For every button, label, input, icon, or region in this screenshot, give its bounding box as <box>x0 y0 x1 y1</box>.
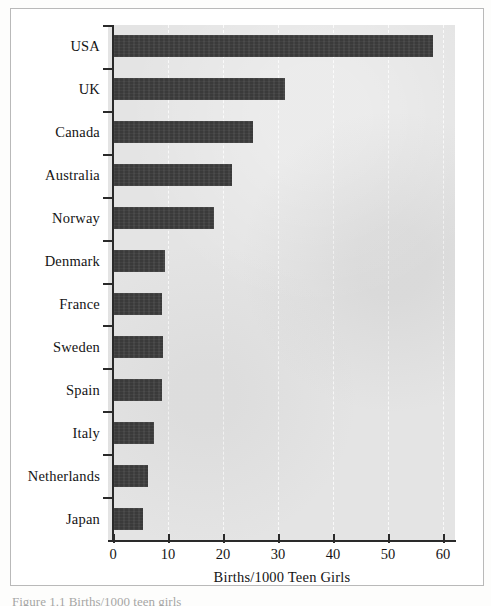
x-axis-title: Births/1000 Teen Girls <box>108 569 456 586</box>
y-tick-label-spain: Spain <box>4 382 100 398</box>
x-tick-label-50: 50 <box>381 546 396 563</box>
y-tick-label-italy: Italy <box>4 425 100 441</box>
bar <box>113 121 253 143</box>
y-tick-mark <box>103 283 114 285</box>
y-tick-mark <box>103 154 114 156</box>
x-tick-mark-30 <box>278 534 280 543</box>
x-tick-label-0: 0 <box>109 546 116 563</box>
x-tick-label-20: 20 <box>216 546 231 563</box>
bar <box>113 164 232 186</box>
bar-series <box>108 25 455 540</box>
x-tick-label-10: 10 <box>161 546 176 563</box>
bar <box>113 379 162 401</box>
bar <box>113 250 165 272</box>
y-tick-label-canada: Canada <box>4 124 100 140</box>
bar <box>113 207 214 229</box>
x-tick-mark-10 <box>168 534 170 543</box>
y-tick-mark <box>103 325 114 327</box>
y-tick-label-japan: Japan <box>4 511 100 527</box>
y-axis-category-labels: USAUKCanadaAustraliaNorwayDenmarkFranceS… <box>0 25 100 540</box>
y-tick-label-sweden: Sweden <box>4 339 100 355</box>
y-tick-label-usa: USA <box>4 38 100 54</box>
y-tick-mark <box>103 368 114 370</box>
y-tick-mark <box>103 111 114 113</box>
x-tick-label-60: 60 <box>436 546 451 563</box>
bar <box>113 35 433 57</box>
y-tick-label-netherlands: Netherlands <box>4 468 100 484</box>
x-axis-tick-labels: 0102030405060 <box>0 546 491 566</box>
y-tick-label-france: France <box>4 296 100 312</box>
figure-caption: Figure 1.1 Births/1000 teen girls <box>12 594 472 606</box>
bar <box>113 508 143 530</box>
y-tick-label-australia: Australia <box>4 167 100 183</box>
y-tick-label-uk: UK <box>4 81 100 97</box>
y-tick-label-norway: Norway <box>4 210 100 226</box>
x-tick-mark-60 <box>443 534 445 543</box>
bar <box>113 422 154 444</box>
y-tick-mark <box>103 240 114 242</box>
x-tick-mark-40 <box>333 534 335 543</box>
bar <box>113 465 148 487</box>
scan-page: USAUKCanadaAustraliaNorwayDenmarkFranceS… <box>0 0 491 606</box>
y-tick-mark <box>103 411 114 413</box>
y-tick-mark <box>103 68 114 70</box>
y-tick-mark <box>103 497 114 499</box>
y-tick-label-denmark: Denmark <box>4 253 100 269</box>
y-tick-mark <box>103 197 114 199</box>
y-tick-mark <box>103 25 114 27</box>
x-tick-label-40: 40 <box>326 546 341 563</box>
bar-chart: USAUKCanadaAustraliaNorwayDenmarkFranceS… <box>0 0 491 606</box>
x-tick-label-30: 30 <box>271 546 286 563</box>
x-axis-line <box>108 540 456 542</box>
x-tick-mark-20 <box>223 534 225 543</box>
x-tick-mark-50 <box>388 534 390 543</box>
x-tick-mark-0 <box>113 534 115 543</box>
bar <box>113 293 162 315</box>
bar <box>113 78 285 100</box>
bar <box>113 336 163 358</box>
y-tick-mark <box>103 454 114 456</box>
